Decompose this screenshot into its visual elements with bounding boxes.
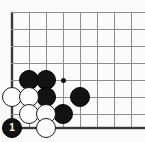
black-stone-f2[interactable]: [70, 87, 90, 107]
black-stone-move-1-label: 1: [3, 119, 21, 137]
board-stones: 1: [0, 0, 145, 142]
go-board-diagram: 1: [0, 0, 145, 142]
black-stone-e1[interactable]: [53, 104, 73, 124]
black-stone-move-1[interactable]: 1: [2, 118, 22, 138]
white-stone-d0[interactable]: [36, 118, 56, 138]
